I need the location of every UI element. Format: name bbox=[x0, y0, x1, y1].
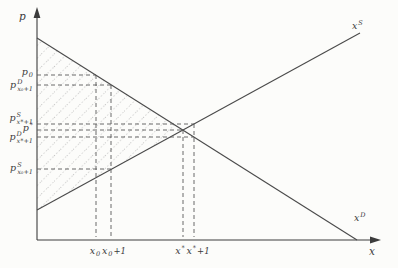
supply-demand-figure: p x x S x D p 0 p Dx₀+1 p Sx*+1 p * p Dx… bbox=[0, 0, 398, 268]
price-label-ps-x0plus1: p Sx₀+1 bbox=[10, 162, 33, 174]
p-axis-label: p bbox=[19, 11, 26, 22]
y-axis-arrow-icon bbox=[34, 7, 41, 18]
price-label-pd-xstarplus1: p Dx*+1 bbox=[9, 131, 33, 143]
demand-curve-label: x D bbox=[354, 212, 366, 224]
price-label-p0: p 0 bbox=[22, 66, 33, 78]
tick-label-x0plus1: x 0 +1 bbox=[102, 245, 126, 257]
price-label-pd-x0plus1: p Dx₀+1 bbox=[10, 79, 33, 91]
diagram-canvas bbox=[0, 0, 398, 268]
x-axis-arrow-icon bbox=[370, 237, 381, 244]
x-axis-label: x bbox=[369, 246, 375, 257]
tick-label-x0: x 0 bbox=[90, 245, 101, 257]
tick-label-xstarplus1: x * +1 bbox=[186, 245, 209, 257]
tick-label-xstar: x * bbox=[175, 245, 185, 257]
supply-curve-label: x S bbox=[352, 20, 363, 32]
